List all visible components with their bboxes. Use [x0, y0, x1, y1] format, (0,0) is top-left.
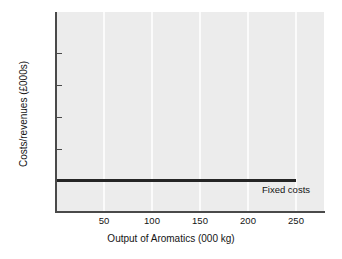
y-axis-line: [55, 12, 57, 213]
chart-figure: 250 200 150 100 50 0 50 100 150 200 250 …: [0, 0, 342, 259]
x-axis-line: [55, 211, 325, 213]
y-tick-250: [57, 53, 62, 54]
x-tick-label-250: 250: [276, 215, 316, 226]
x-tick-label-100: 100: [132, 215, 172, 226]
plot-area: [57, 12, 324, 212]
fixed-costs-annotation: Fixed costs: [262, 184, 310, 196]
x-tick-label-150: 150: [180, 215, 220, 226]
y-axis-title: Costs/revenues (£000s): [18, 34, 30, 194]
gridline-x-200: [247, 12, 249, 212]
x-tick-label-200: 200: [228, 215, 268, 226]
y-tick-200: [57, 85, 62, 86]
gridline-x-150: [199, 12, 201, 212]
x-tick-label-50: 50: [84, 215, 124, 226]
fixed-costs-line: [57, 179, 296, 182]
y-tick-150: [57, 117, 62, 118]
gridline-x-100: [151, 12, 153, 212]
y-tick-100: [57, 149, 62, 150]
gridline-x-50: [103, 12, 105, 212]
x-axis-title: Output of Aromatics (000 kg): [0, 233, 342, 245]
gridline-x-250: [295, 12, 297, 212]
